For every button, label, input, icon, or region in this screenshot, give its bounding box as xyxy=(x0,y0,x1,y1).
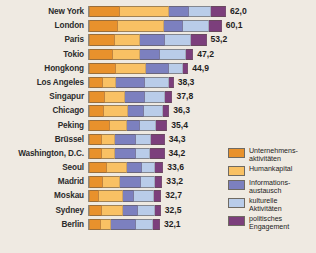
bar-segment[interactable] xyxy=(123,190,134,201)
bar-segment[interactable] xyxy=(150,148,165,159)
bar-segment[interactable] xyxy=(123,205,139,216)
bar-segment[interactable] xyxy=(169,6,189,17)
bar-segment[interactable] xyxy=(110,120,127,131)
bar-segment[interactable] xyxy=(103,176,120,187)
stacked-bar[interactable] xyxy=(89,34,207,45)
bar-segment[interactable] xyxy=(116,63,147,74)
bar-segment[interactable] xyxy=(186,49,194,60)
bar-segment[interactable] xyxy=(209,20,221,31)
bar-segment[interactable] xyxy=(163,105,170,116)
bar-segment[interactable] xyxy=(102,134,115,145)
legend-label: Unternehmens- aktivitäten xyxy=(249,147,298,163)
bar-segment[interactable] xyxy=(140,49,160,60)
bar-segment[interactable] xyxy=(111,219,136,230)
bar-segment[interactable] xyxy=(189,6,212,17)
bar-segment[interactable] xyxy=(165,91,172,102)
bar-segment[interactable] xyxy=(125,91,145,102)
bar-segment[interactable] xyxy=(153,219,160,230)
bar-segment[interactable] xyxy=(89,91,105,102)
bar-segment[interactable] xyxy=(120,6,168,17)
bar-segment[interactable] xyxy=(156,120,167,131)
plot-area: New York62,0London60,1Paris53,2Tokio47,2… xyxy=(4,6,226,249)
bar-segment[interactable] xyxy=(116,77,145,88)
bar-segment[interactable] xyxy=(144,105,163,116)
legend-item[interactable]: politisches Engagement xyxy=(228,215,314,231)
bar-segment[interactable] xyxy=(134,190,154,201)
legend-item[interactable]: kulturelle Aktivitäten xyxy=(228,197,314,213)
stacked-bar[interactable] xyxy=(89,120,167,131)
bar-segment[interactable] xyxy=(151,134,165,145)
stacked-bar[interactable] xyxy=(89,162,163,173)
bar-segment[interactable] xyxy=(127,120,140,131)
stacked-bar[interactable] xyxy=(89,134,165,145)
stacked-bar[interactable] xyxy=(89,219,160,230)
bar-segment[interactable] xyxy=(89,205,102,216)
bar-segment[interactable] xyxy=(102,205,123,216)
bar-segment[interactable] xyxy=(160,49,186,60)
stacked-bar[interactable] xyxy=(89,91,173,102)
bar-segment[interactable] xyxy=(142,162,155,173)
bar-segment[interactable] xyxy=(183,20,210,31)
bar-segment[interactable] xyxy=(89,190,99,201)
bar-segment[interactable] xyxy=(165,34,190,45)
bar-segment[interactable] xyxy=(169,63,183,74)
bar-segment[interactable] xyxy=(107,162,127,173)
bar-segment[interactable] xyxy=(141,176,155,187)
bar-segment[interactable] xyxy=(104,105,127,116)
bar-segment[interactable] xyxy=(89,49,113,60)
bar-segment[interactable] xyxy=(102,148,115,159)
stacked-bar[interactable] xyxy=(89,49,193,60)
bar-segment[interactable] xyxy=(103,77,116,88)
bar-segment[interactable] xyxy=(89,162,107,173)
bar-segment[interactable] xyxy=(89,105,104,116)
bar-segment[interactable] xyxy=(89,148,102,159)
bar-segment[interactable] xyxy=(140,120,156,131)
stacked-bar[interactable] xyxy=(89,176,162,187)
bar-segment[interactable] xyxy=(136,148,150,159)
stacked-bar[interactable] xyxy=(89,148,165,159)
bar-segment[interactable] xyxy=(128,105,144,116)
bar-segment[interactable] xyxy=(138,205,155,216)
bar-segment[interactable] xyxy=(89,219,101,230)
bar-segment[interactable] xyxy=(113,49,140,60)
legend-item[interactable]: Informations- austausch xyxy=(228,179,314,195)
bar-segment[interactable] xyxy=(155,162,163,173)
bar-segment[interactable] xyxy=(89,20,118,31)
bar-segment[interactable] xyxy=(127,162,142,173)
bar-segment[interactable] xyxy=(89,176,103,187)
stacked-bar[interactable] xyxy=(89,190,161,201)
bar-segment[interactable] xyxy=(101,219,111,230)
bar-segment[interactable] xyxy=(89,120,110,131)
bar-segment[interactable] xyxy=(145,91,165,102)
bar-segment[interactable] xyxy=(136,134,151,145)
stacked-bar[interactable] xyxy=(89,20,222,31)
bar-segment[interactable] xyxy=(120,176,141,187)
bar-segment[interactable] xyxy=(89,134,102,145)
bar-segment[interactable] xyxy=(136,219,154,230)
bar-segment[interactable] xyxy=(146,63,169,74)
bar-segment[interactable] xyxy=(99,190,123,201)
bar-segment[interactable] xyxy=(115,134,136,145)
bar-segment[interactable] xyxy=(145,77,169,88)
stacked-bar[interactable] xyxy=(89,205,161,216)
stacked-bar[interactable] xyxy=(89,63,188,74)
legend-item[interactable]: Unternehmens- aktivitäten xyxy=(228,147,314,163)
stacked-bar[interactable] xyxy=(89,77,174,88)
bar-segment[interactable] xyxy=(89,77,103,88)
bar-segment[interactable] xyxy=(118,20,165,31)
bar-segment[interactable] xyxy=(211,6,226,17)
stacked-bar[interactable] xyxy=(89,105,169,116)
bar-segment[interactable] xyxy=(105,91,126,102)
bar-segment[interactable] xyxy=(115,148,136,159)
bar-segment[interactable] xyxy=(89,6,120,17)
bar-segment[interactable] xyxy=(164,20,182,31)
bar-segment[interactable] xyxy=(191,34,207,45)
bar-segment[interactable] xyxy=(115,34,140,45)
bar-segment[interactable] xyxy=(140,34,166,45)
bar-segment[interactable] xyxy=(89,34,115,45)
legend-item[interactable]: Humankapital xyxy=(228,165,314,176)
bar-segment[interactable] xyxy=(89,63,116,74)
bar-segment[interactable] xyxy=(155,176,163,187)
stacked-bar[interactable] xyxy=(89,6,226,17)
bar-segment[interactable] xyxy=(154,190,161,201)
